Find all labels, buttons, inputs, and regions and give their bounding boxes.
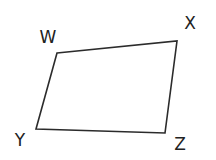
vertex-label-y: Y: [14, 130, 26, 150]
vertex-label-x: X: [184, 13, 196, 33]
quadrilateral-wxzy: [36, 41, 177, 133]
vertex-label-z: Z: [174, 134, 186, 154]
quadrilateral-diagram: W X Y Z: [0, 0, 216, 160]
vertex-label-w: W: [40, 27, 57, 47]
